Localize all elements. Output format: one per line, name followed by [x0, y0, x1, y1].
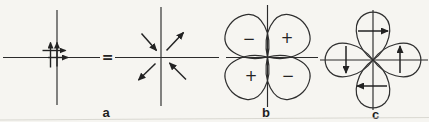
panel-label-b: b — [262, 105, 270, 120]
arrow-outward-southwest — [139, 64, 156, 81]
equals-sign: = — [102, 49, 114, 65]
arrow-inward-southeast — [170, 63, 187, 80]
plus-sign-northeast: + — [281, 29, 294, 47]
arrow-inward-northwest — [142, 34, 157, 51]
orbital-diagram-figure: = a − + + − b — [0, 0, 429, 122]
panel-b-orbital-signs: − + + − — [217, 5, 318, 107]
minus-sign-southeast: − — [282, 67, 295, 85]
panel-label-a: a — [102, 105, 110, 120]
diagram-canvas: = a − + + − b — [0, 0, 429, 122]
scan-artifact-line — [0, 118, 429, 121]
quadrupole-symbol-panel — [3, 10, 100, 105]
quadrupole-hash-symbol — [43, 43, 69, 68]
minus-sign-northwest: − — [243, 30, 256, 48]
panel-label-c: c — [372, 107, 379, 122]
arrow-outward-northeast — [167, 33, 184, 51]
panel-c-orbital-arrows — [320, 10, 428, 110]
panel-a-expanded-arrows — [115, 7, 219, 106]
plus-sign-southwest: + — [245, 67, 258, 85]
